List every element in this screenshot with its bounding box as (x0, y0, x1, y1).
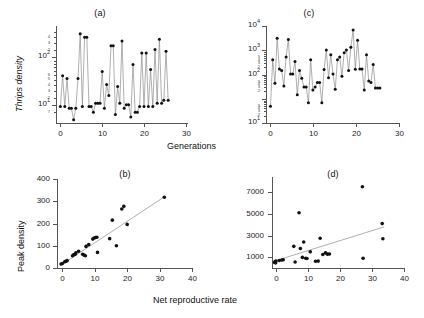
data-point (308, 250, 312, 254)
data-point (112, 44, 115, 47)
data-point (138, 105, 141, 108)
data-point (282, 84, 285, 87)
data-point (74, 107, 77, 110)
data-point (305, 257, 309, 261)
data-point (361, 67, 364, 70)
data-point (365, 53, 368, 56)
data-point (325, 49, 328, 52)
data-point (99, 102, 102, 105)
generations-axis-title: Generations (167, 141, 216, 151)
data-point (372, 63, 375, 66)
data-point (167, 99, 170, 102)
data-point (125, 223, 129, 227)
data-point (280, 69, 283, 72)
data-point (154, 48, 157, 51)
data-point (354, 68, 357, 71)
data-point (307, 101, 310, 104)
data-point (332, 72, 335, 75)
data-point (63, 105, 66, 108)
data-point (302, 240, 306, 244)
data-point (96, 251, 100, 255)
panel-d-plot (212, 155, 424, 318)
data-point (140, 51, 143, 54)
data-point (336, 58, 339, 61)
panel-d: (d) 1000 3000 5000 7000 0 10 20 30 40 (212, 155, 424, 318)
panel-b-plot (0, 155, 212, 318)
data-point (311, 88, 314, 91)
data-point (378, 87, 381, 90)
data-point (85, 36, 88, 39)
data-point (77, 250, 81, 254)
data-point (369, 81, 372, 84)
data-point (151, 105, 154, 108)
data-point (361, 256, 365, 260)
data-point (309, 58, 312, 61)
data-point (108, 237, 112, 241)
data-point (300, 77, 303, 80)
data-point (340, 75, 343, 78)
data-point (338, 55, 341, 58)
data-point (363, 88, 366, 91)
data-point (115, 244, 119, 248)
data-point (328, 252, 332, 256)
figure-container: (a) Thrips density 101 102 7 2 3 4 5 6 2 (0, 0, 424, 318)
data-point (298, 69, 301, 72)
data-point (291, 72, 294, 75)
data-point (323, 68, 326, 71)
data-point (70, 107, 73, 110)
data-point (84, 254, 88, 258)
data-point (87, 243, 91, 247)
data-point (158, 38, 161, 41)
panel-c: (c) 101 102 103 104 2 3 4 5 2 3 4 (212, 0, 424, 155)
data-point (293, 260, 297, 264)
data-point (95, 236, 99, 240)
data-point (147, 105, 150, 108)
data-point (345, 49, 348, 52)
data-point (292, 245, 296, 249)
data-point (269, 105, 272, 108)
data-point (132, 63, 135, 66)
data-point (287, 38, 290, 41)
panel-a: (a) Thrips density 101 102 7 2 3 4 5 6 2 (0, 0, 212, 155)
data-point (356, 39, 359, 42)
data-point (163, 195, 167, 199)
data-point (136, 111, 139, 114)
data-point (122, 205, 126, 209)
data-point (156, 102, 159, 105)
data-point (145, 51, 148, 54)
data-point (281, 258, 285, 262)
data-point (121, 39, 124, 42)
data-point (276, 37, 279, 40)
data-point (118, 102, 121, 105)
data-point (273, 82, 276, 85)
data-point (129, 115, 132, 118)
data-point (116, 85, 119, 88)
data-point (107, 94, 110, 97)
data-point (297, 211, 301, 215)
data-point (305, 85, 308, 88)
data-point (165, 50, 168, 53)
data-point (90, 105, 93, 108)
data-point (327, 76, 330, 79)
data-point (79, 32, 82, 35)
data-point (285, 55, 288, 58)
data-point (123, 107, 126, 110)
data-point (143, 105, 146, 108)
data-point (81, 105, 84, 108)
data-point (59, 105, 62, 108)
data-point (101, 70, 104, 73)
data-point (329, 53, 332, 56)
data-point (72, 118, 75, 121)
data-point (61, 74, 64, 77)
data-point (162, 99, 165, 102)
data-point (343, 51, 346, 54)
data-point (352, 29, 355, 32)
data-point (316, 259, 320, 263)
panel-c-plot (212, 0, 424, 155)
panel-b: (b) Peak density 0 100 200 300 400 0 10 … (0, 155, 212, 318)
data-point (65, 259, 69, 263)
data-point (301, 256, 305, 260)
data-point (111, 218, 115, 222)
data-point (66, 77, 69, 80)
data-point (334, 88, 337, 91)
